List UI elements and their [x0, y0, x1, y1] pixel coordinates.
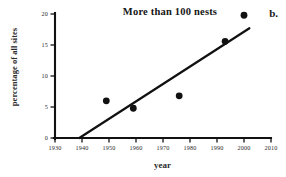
- panel-label: b.: [269, 7, 278, 19]
- data-point: [130, 105, 137, 112]
- y-tick-label-10: 10: [42, 72, 48, 79]
- data-point: [176, 92, 183, 99]
- x-tick-label-2000: 2000: [238, 144, 251, 151]
- trend-line: [79, 28, 249, 138]
- chart-figure: 20 15 10 5 0 1930 1940 1950 1960 1970 19…: [0, 0, 286, 177]
- y-axis: 20 15 10 5 0: [42, 10, 55, 141]
- x-tick-label-1970: 1970: [157, 144, 170, 151]
- x-tick-label-1940: 1940: [76, 144, 89, 151]
- y-axis-title: percentage of all sites: [9, 1, 19, 133]
- x-tick-label-1990: 1990: [211, 144, 224, 151]
- x-tick-label-2010: 2010: [265, 144, 278, 151]
- x-tick-label-1960: 1960: [130, 144, 143, 151]
- y-tick-label-5: 5: [45, 103, 48, 110]
- x-tick-label-1950: 1950: [103, 144, 116, 151]
- y-tick-label-15: 15: [42, 41, 48, 48]
- y-tick-label-0: 0: [45, 134, 48, 141]
- x-tick-label-1930: 1930: [49, 144, 62, 151]
- data-point: [222, 38, 229, 45]
- data-points-group: [103, 12, 248, 112]
- y-tick-label-20: 20: [42, 10, 48, 17]
- scatter-plot-canvas: 20 15 10 5 0 1930 1940 1950 1960 1970 19…: [0, 0, 286, 177]
- x-axis: 1930 1940 1950 1960 1970 1980 1990 2000 …: [49, 138, 278, 151]
- data-point: [103, 97, 110, 104]
- data-series-layer: [79, 12, 249, 138]
- chart-title: More than 100 nests: [96, 6, 244, 18]
- x-axis-title: year: [55, 160, 270, 170]
- x-tick-label-1980: 1980: [184, 144, 197, 151]
